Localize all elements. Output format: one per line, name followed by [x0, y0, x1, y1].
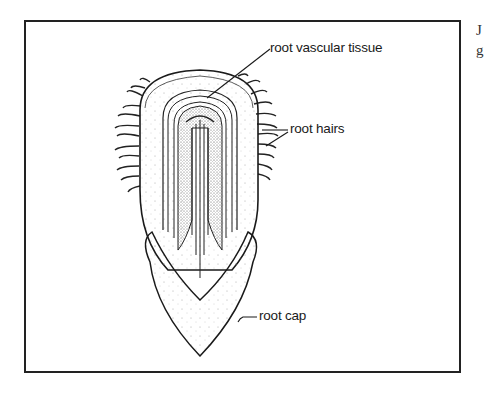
label-root-cap: root cap [259, 308, 306, 323]
label-root-vascular-tissue: root vascular tissue [270, 40, 382, 55]
cropped-side-text-2: g [476, 42, 484, 59]
label-root-hairs: root hairs [290, 121, 344, 136]
leader-hairs-2 [266, 132, 288, 146]
leader-cap [238, 317, 257, 322]
cropped-side-text-1: J [476, 22, 482, 39]
root-epidermis [140, 70, 258, 270]
root-tip-illustration [0, 0, 488, 395]
